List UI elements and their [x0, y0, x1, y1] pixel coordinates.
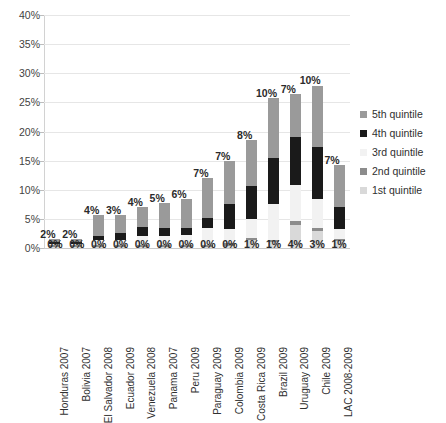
x-axis-tick-label: Paraguay 2009: [212, 347, 223, 415]
y-axis-tick-label: 35%: [0, 38, 40, 50]
legend-label: 2nd quintile: [372, 165, 426, 177]
bar-top-value-label: 7%: [193, 167, 208, 179]
bar-top-value-label: 5%: [150, 192, 165, 204]
bar-segment: [224, 161, 235, 205]
x-axis-labels: Honduras 2007Bolivia 2007El Salvador 200…: [44, 252, 350, 349]
bar-column[interactable]: [290, 94, 301, 248]
bar-segment: [290, 185, 301, 221]
x-axis-tick-label: Peru 2009: [190, 347, 201, 393]
bar-bottom-value-label: 0%: [178, 238, 193, 250]
bar-segment: [246, 140, 257, 186]
bar-segment: [246, 219, 257, 237]
bar-bottom-value-label: 0%: [200, 238, 215, 250]
x-axis-tick-label: Colombia 2009: [234, 347, 245, 414]
legend-swatch-icon: [360, 168, 367, 175]
plot-area: 0%2%0%2%0%4%0%3%0%4%0%5%0%6%0%7%0%7%1%8%…: [44, 15, 350, 248]
legend-label: 5th quintile: [372, 108, 423, 120]
bar-bottom-value-label: 0%: [69, 238, 84, 250]
x-axis-tick-label: Brazil 2009: [278, 347, 289, 397]
bar-segment: [115, 215, 126, 234]
y-axis-tick-label: 40%: [0, 9, 40, 21]
bar-column[interactable]: [312, 86, 323, 248]
y-axis: 0%5%10%15%20%25%30%35%40%: [0, 0, 40, 349]
bar-bottom-value-label: 1%: [266, 238, 281, 250]
bar-segment: [246, 186, 257, 219]
x-axis-tick-label: El Salvador 2008: [103, 347, 114, 423]
legend-swatch-icon: [360, 187, 367, 194]
legend-item[interactable]: 4th quintile: [360, 127, 426, 139]
x-axis-tick-label: Honduras 2007: [59, 347, 70, 415]
bar-column[interactable]: [334, 165, 345, 248]
x-axis-tick-label: Ecuador 2009: [125, 347, 136, 409]
bar-top-value-label: 6%: [171, 188, 186, 200]
bar-segment: [268, 204, 279, 240]
bar-segment: [334, 207, 345, 229]
y-axis-tick-label: 30%: [0, 67, 40, 79]
legend-item[interactable]: 2nd quintile: [360, 165, 426, 177]
bar-bottom-value-label: 1%: [331, 238, 346, 250]
bar-bottom-value-label: 0%: [91, 238, 106, 250]
bar-bottom-value-label: 3%: [310, 238, 325, 250]
bar-bottom-value-label: 0%: [135, 238, 150, 250]
legend-label: 4th quintile: [372, 127, 423, 139]
bar-column[interactable]: [268, 98, 279, 248]
x-axis-tick-label: Panama 2007: [168, 347, 179, 409]
x-axis-tick-label: Bolivia 2007: [81, 347, 92, 401]
bar-bottom-value-label: 0%: [222, 238, 237, 250]
legend-item[interactable]: 5th quintile: [360, 108, 426, 120]
y-axis-tick-label: 0%: [0, 242, 40, 254]
bar-segment: [312, 147, 323, 199]
bar-column[interactable]: [224, 161, 235, 248]
bar-top-value-label: 3%: [106, 204, 121, 216]
x-axis-tick-label: Venezuela 2008: [146, 347, 157, 419]
bar-bottom-value-label: 1%: [244, 238, 259, 250]
bar-bottom-value-label: 4%: [288, 238, 303, 250]
bars-layer: 0%2%0%2%0%4%0%3%0%4%0%5%0%6%0%7%0%7%1%8%…: [44, 15, 350, 248]
x-axis-tick-label: Uruguay 2009: [299, 347, 310, 410]
chart-title: [0, 0, 446, 3]
legend-item[interactable]: 3rd quintile: [360, 146, 426, 158]
bar-top-value-label: 7%: [324, 154, 339, 166]
bar-segment: [181, 199, 192, 228]
y-axis-tick-label: 25%: [0, 96, 40, 108]
legend-label: 3rd quintile: [372, 146, 423, 158]
bar-segment: [334, 165, 345, 207]
bar-top-value-label: 7%: [281, 83, 296, 95]
bar-top-value-label: 4%: [128, 196, 143, 208]
bar-segment: [312, 86, 323, 147]
bar-bottom-value-label: 0%: [47, 238, 62, 250]
bar-top-value-label: 2%: [62, 228, 77, 240]
x-axis-tick-label: Chile 2009: [321, 347, 332, 395]
legend-swatch-icon: [360, 111, 367, 118]
bar-segment: [159, 203, 170, 228]
bar-column[interactable]: [246, 140, 257, 248]
chart-legend: 5th quintile4th quintile3rd quintile2nd …: [360, 108, 426, 196]
bar-top-value-label: 10%: [300, 74, 321, 86]
bar-segment: [181, 228, 192, 235]
legend-swatch-icon: [360, 149, 367, 156]
bar-bottom-value-label: 0%: [113, 238, 128, 250]
y-axis-tick-label: 10%: [0, 184, 40, 196]
bar-segment: [202, 178, 213, 218]
x-axis-tick-label: LAC 2008-2009: [343, 347, 354, 417]
bar-segment: [290, 94, 301, 137]
bar-top-value-label: 2%: [40, 228, 55, 240]
bar-segment: [312, 199, 323, 228]
bar-segment: [159, 228, 170, 236]
x-axis-tick-label: Costa Rica 2009: [256, 347, 267, 421]
bar-segment: [202, 218, 213, 228]
y-axis-tick-label: 5%: [0, 213, 40, 225]
y-axis-tick-label: 15%: [0, 155, 40, 167]
bar-segment: [224, 204, 235, 228]
bar-top-value-label: 8%: [237, 129, 252, 141]
bar-segment: [137, 227, 148, 236]
bar-top-value-label: 4%: [84, 204, 99, 216]
legend-label: 1st quintile: [372, 184, 422, 196]
bar-bottom-value-label: 0%: [157, 238, 172, 250]
legend-swatch-icon: [360, 130, 367, 137]
legend-item[interactable]: 1st quintile: [360, 184, 426, 196]
bar-segment: [290, 137, 301, 185]
bar-segment: [268, 158, 279, 205]
gridline: [44, 248, 350, 249]
